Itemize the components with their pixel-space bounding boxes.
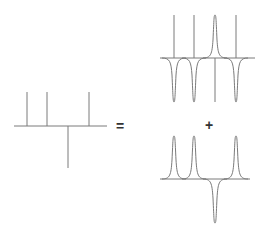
bottom-peak-2-positive	[182, 136, 206, 179]
left-stick-spectrum	[14, 92, 107, 168]
bottom-peak-3-negative	[203, 179, 227, 223]
top-peak-4-negative	[224, 58, 248, 102]
top-peak-3-positive	[203, 15, 227, 58]
top-peak-2-negative	[182, 58, 206, 102]
equals-sign: =	[116, 119, 124, 133]
bottom-peak-1-positive	[162, 136, 186, 179]
top-peak-1-negative	[162, 58, 186, 102]
plus-sign: +	[205, 118, 213, 132]
bottom-peak-4-positive	[224, 136, 248, 179]
spectrum-decomposition-diagram	[0, 0, 262, 233]
top-right-spectrum	[160, 15, 255, 102]
bottom-right-spectrum	[160, 136, 250, 223]
